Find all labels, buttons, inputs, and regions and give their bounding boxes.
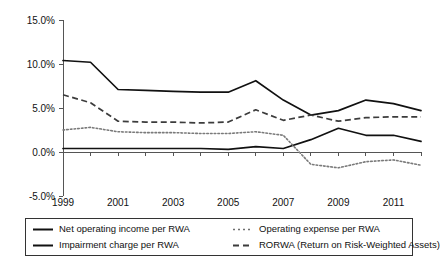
legend-key-dashed-icon: [232, 241, 254, 250]
x-tick-label: 2009: [327, 197, 350, 208]
x-tick-label: 2011: [383, 197, 405, 208]
y-axis-ticks: -5.0%0.0%5.0%10.0%15.0%: [27, 15, 63, 202]
plot-area: -5.0%0.0%5.0%10.0%15.0% 1999200120032005…: [0, 0, 441, 212]
series-rorwa-return-on-risk-weighted-assets: [63, 95, 421, 123]
legend-item-net-operating-income: Net operating income per RWA: [32, 224, 232, 234]
legend-key-dotted-icon: [232, 225, 254, 234]
legend-item-impairment-charge: Impairment charge per RWA: [32, 240, 232, 250]
y-tick-label: 10.0%: [27, 59, 55, 70]
y-tick-label: 5.0%: [32, 103, 55, 114]
y-tick-label: 15.0%: [27, 15, 55, 26]
legend-item-rorwa: RORWA (Return on Risk-Weighted Assets): [232, 240, 440, 250]
x-tick-label: 2001: [107, 197, 130, 208]
legend-key-solid-icon: [32, 241, 54, 250]
chart-legend: Net operating income per RWA Operating e…: [25, 218, 413, 256]
legend-item-operating-expense: Operating expense per RWA: [232, 224, 440, 234]
legend-label-rorwa: RORWA (Return on Risk-Weighted Assets): [259, 240, 440, 250]
legend-label-operating-expense: Operating expense per RWA: [259, 224, 380, 234]
x-tick-label: 2007: [272, 197, 295, 208]
y-tick-label: 0.0%: [32, 147, 55, 158]
x-axis-ticks: 1999200120032005200720092011: [52, 152, 421, 208]
chart-figure: -5.0%0.0%5.0%10.0%15.0% 1999200120032005…: [0, 0, 441, 264]
x-tick-label: 2005: [217, 197, 240, 208]
line-chart-svg: -5.0%0.0%5.0%10.0%15.0% 1999200120032005…: [0, 0, 441, 212]
series-net-operating-income-per-rwa: [63, 60, 421, 115]
legend-label-net-operating-income: Net operating income per RWA: [59, 224, 190, 234]
legend-label-impairment-charge: Impairment charge per RWA: [59, 240, 179, 250]
x-tick-label: 1999: [52, 197, 75, 208]
x-tick-label: 2003: [162, 197, 185, 208]
legend-key-solid-icon: [32, 225, 54, 234]
